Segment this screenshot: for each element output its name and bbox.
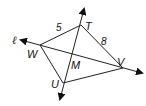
line-TU-up [72,9,84,54]
label-ell: ℓ [12,34,17,47]
label-W: W [27,48,39,60]
length-TV: 8 [101,36,107,47]
line-ell-right [80,56,142,73]
label-V: V [117,56,126,68]
label-U: U [51,78,59,90]
length-WT: 5 [56,22,62,33]
geometry-diagram: ℓ W T V U M 5 8 [0,0,146,106]
label-M: M [71,59,81,71]
label-T: T [85,20,93,32]
